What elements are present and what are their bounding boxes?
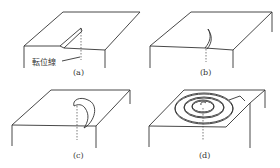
dislocation-line-label: 転位線 [32,56,56,67]
panel-b-caption: (b) [200,68,211,77]
panel-a-caption: (a) [73,68,84,77]
dislocation-diagram [0,0,280,168]
panel-c-caption: (c) [73,151,84,160]
panel-b-block [150,12,272,68]
panel-d-caption: (d) [199,151,210,160]
panel-c-block [12,90,130,148]
panel-d-block [149,90,265,148]
